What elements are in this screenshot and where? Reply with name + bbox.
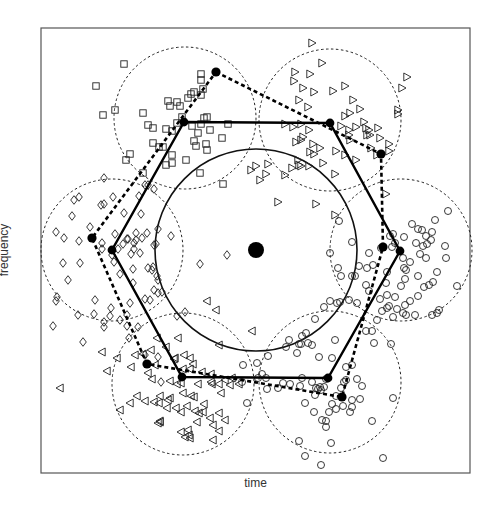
circle-marker	[400, 255, 407, 262]
circle-marker	[357, 396, 364, 403]
circle-marker	[432, 217, 439, 224]
diamond-marker	[110, 193, 117, 202]
circle-marker	[349, 239, 356, 246]
circle-marker	[333, 406, 340, 413]
circle-marker	[287, 381, 294, 388]
triangle-right-marker	[333, 147, 340, 155]
diamond-marker	[60, 259, 67, 268]
triangle-right-marker	[300, 84, 307, 92]
square-marker	[163, 126, 169, 132]
circle-marker	[356, 263, 363, 270]
square-marker	[121, 61, 127, 67]
triangle-right-marker	[330, 87, 337, 95]
circle-marker	[286, 337, 293, 344]
square-marker	[163, 162, 169, 168]
hexagon-vertex-dot	[396, 247, 405, 256]
triangle-right-marker	[290, 123, 297, 131]
triangle-right-marker	[265, 160, 272, 168]
circle-marker	[443, 255, 450, 262]
dashed-vertex-dot	[87, 233, 96, 242]
triangle-left-marker	[215, 409, 222, 417]
triangle-left-marker	[212, 306, 219, 314]
dashed-vertex-dot	[337, 392, 346, 401]
diamond-marker	[144, 229, 151, 238]
triangle-right-marker	[313, 200, 320, 208]
triangle-right-marker	[311, 88, 318, 96]
square-marker	[198, 71, 204, 77]
circle-marker	[412, 312, 419, 319]
circle-marker	[240, 362, 247, 369]
square-marker	[189, 123, 195, 129]
triangle-right-marker	[377, 134, 384, 142]
diamond-marker	[107, 312, 114, 321]
diamond-marker	[182, 308, 189, 317]
circle-marker	[423, 255, 430, 262]
circle-marker	[332, 337, 339, 344]
triangle-left-marker	[248, 327, 255, 335]
circle-marker	[294, 350, 301, 357]
circle-marker	[415, 293, 422, 300]
circle-marker	[377, 296, 384, 303]
triangle-left-marker	[226, 381, 233, 389]
triangle-left-marker	[207, 378, 214, 386]
triangle-right-marker	[292, 68, 299, 76]
circle-marker	[346, 297, 353, 304]
triangle-left-marker	[217, 389, 224, 397]
circle-marker	[302, 400, 309, 407]
circle-marker	[311, 409, 318, 416]
triangle-right-marker	[296, 96, 303, 104]
diamond-marker	[197, 260, 204, 269]
triangle-left-marker	[200, 400, 207, 408]
triangle-right-marker	[320, 159, 327, 167]
circle-marker	[420, 243, 427, 250]
triangle-left-marker	[131, 351, 138, 359]
diamond-marker	[128, 250, 135, 259]
circle-marker	[309, 342, 316, 349]
triangle-left-marker	[215, 380, 222, 388]
diamond-marker	[131, 239, 138, 248]
triangle-right-marker	[263, 170, 270, 178]
circle-marker	[264, 386, 271, 393]
diamond-marker	[151, 286, 158, 295]
square-marker	[204, 147, 210, 153]
circle-marker	[318, 462, 325, 469]
square-marker	[169, 160, 175, 166]
diamond-marker	[139, 234, 146, 243]
diamond-marker	[131, 245, 138, 254]
square-marker	[220, 181, 226, 187]
triangle-right-marker	[253, 162, 260, 170]
square-marker	[169, 152, 175, 158]
circle-marker	[445, 208, 452, 215]
circle-marker	[401, 234, 408, 241]
circle-marker	[428, 237, 435, 244]
triangle-right-marker	[386, 140, 393, 148]
scatter-plot	[0, 0, 491, 510]
center-point	[248, 242, 264, 258]
diamond-marker	[158, 378, 165, 387]
triangle-right-marker	[310, 140, 317, 148]
circle-marker	[336, 218, 343, 225]
circle-marker	[338, 273, 345, 280]
circle-marker	[402, 276, 409, 283]
circle-marker	[401, 265, 408, 272]
square-marker	[198, 77, 204, 83]
circle-marker	[364, 265, 371, 272]
triangle-right-marker	[309, 39, 316, 47]
diamond-marker	[92, 296, 99, 305]
diamond-marker	[121, 209, 128, 218]
diamond-marker	[77, 259, 84, 268]
triangle-left-marker	[133, 392, 140, 400]
triangle-right-marker	[248, 166, 255, 174]
circle-marker	[434, 269, 441, 276]
diamond-marker	[61, 234, 68, 243]
circle-marker	[329, 401, 336, 408]
circle-marker	[340, 403, 347, 410]
triangle-left-marker	[98, 348, 105, 356]
diamond-marker	[87, 223, 94, 232]
circle-marker	[413, 240, 420, 247]
circle-marker	[390, 314, 397, 321]
triangle-left-marker	[172, 404, 179, 412]
circle-marker	[359, 383, 366, 390]
diamond-marker	[108, 304, 115, 313]
triangle-left-marker	[163, 404, 170, 412]
